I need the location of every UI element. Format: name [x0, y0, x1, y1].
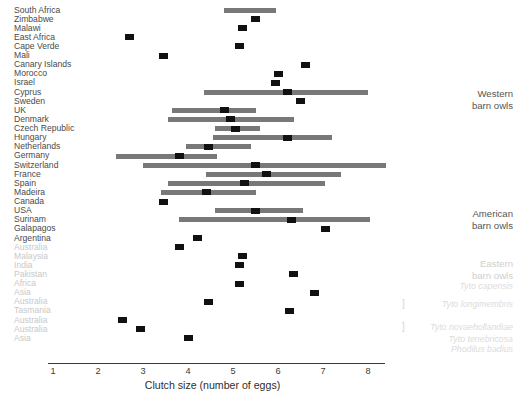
row-label: Asia — [14, 334, 31, 343]
range-bar — [116, 154, 217, 159]
mean-point — [118, 317, 127, 323]
range-bar — [143, 163, 386, 168]
group-label-line1: Western — [472, 88, 513, 100]
mean-point — [301, 62, 310, 68]
mean-point — [125, 34, 134, 40]
group-label-line2: barn owls — [472, 220, 513, 232]
x-tick-label: 6 — [268, 366, 288, 376]
mean-point — [285, 308, 294, 314]
mean-point — [274, 71, 283, 77]
mean-point — [296, 98, 305, 104]
mean-point — [175, 244, 184, 250]
group-label-western-barn-owls: Westernbarn owls — [472, 88, 513, 111]
mean-point — [159, 199, 168, 205]
mean-point — [251, 208, 260, 214]
mean-point — [159, 53, 168, 59]
range-bar — [179, 217, 370, 222]
group-label-line2: barn owls — [472, 100, 513, 112]
mean-point — [283, 135, 292, 141]
x-tick-label: 7 — [313, 366, 333, 376]
range-bar — [213, 135, 332, 140]
mean-point — [235, 262, 244, 268]
species-label-phodilus-badius: Phodilus badius — [451, 344, 513, 354]
mean-point — [271, 80, 280, 86]
species-label-tyto-tenebricosa: Tyto tenebricosa — [449, 334, 513, 344]
species-label-tyto-capensis: Tyto capensis — [459, 281, 513, 291]
mean-point — [184, 335, 193, 341]
group-label-american-barn-owls: Americanbarn owls — [472, 208, 513, 231]
x-axis-line — [48, 363, 385, 364]
mean-point — [202, 189, 211, 195]
range-bar — [206, 172, 341, 177]
mean-point — [289, 271, 298, 277]
mean-point — [136, 326, 145, 332]
mean-point — [251, 162, 260, 168]
bracket-tyto-novaehollandiae: ] — [402, 322, 405, 332]
x-tick-label: 5 — [223, 366, 243, 376]
bracket-tyto-longimembris: ] — [402, 299, 405, 309]
mean-point — [251, 16, 260, 22]
mean-point — [287, 217, 296, 223]
x-tick-label: 4 — [178, 366, 198, 376]
mean-point — [231, 126, 240, 132]
mean-point — [235, 43, 244, 49]
x-tick-label: 8 — [358, 366, 378, 376]
species-label-tyto-novaehollandiae: Tyto novaehollandiae — [430, 322, 513, 332]
x-tick-label: 1 — [43, 366, 63, 376]
mean-point — [235, 281, 244, 287]
range-bar — [186, 144, 251, 149]
mean-point — [204, 299, 213, 305]
group-label-line2: barn owls — [472, 270, 513, 282]
group-label-line1: American — [472, 208, 513, 220]
mean-point — [262, 171, 271, 177]
mean-point — [220, 107, 229, 113]
mean-point — [238, 253, 247, 259]
mean-point — [321, 226, 330, 232]
group-label-line1: Eastern — [472, 258, 513, 270]
x-tick-label: 2 — [88, 366, 108, 376]
x-tick-label: 3 — [133, 366, 153, 376]
species-label-tyto-longimembris: Tyto longimembris — [442, 299, 513, 309]
mean-point — [175, 153, 184, 159]
clutch-size-chart: South AfricaZimbabweMalawiEast AfricaCap… — [0, 0, 525, 398]
mean-point — [204, 144, 213, 150]
x-axis-title: Clutch size (number of eggs) — [0, 379, 425, 391]
range-bar — [224, 8, 276, 13]
mean-point — [238, 25, 247, 31]
mean-point — [310, 290, 319, 296]
mean-point — [283, 89, 292, 95]
mean-point — [193, 235, 202, 241]
mean-point — [226, 116, 235, 122]
range-bar — [172, 108, 255, 113]
group-label-eastern-barn-owls: Easternbarn owls — [472, 258, 513, 281]
mean-point — [240, 180, 249, 186]
